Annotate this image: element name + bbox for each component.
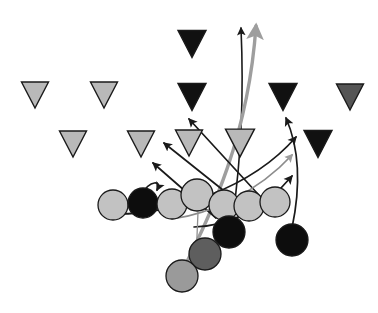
lineman-right (260, 187, 290, 217)
receiver-black-left (128, 188, 158, 218)
lineman-4 (234, 191, 264, 221)
lineman-left (98, 190, 128, 220)
back-gray-deep (166, 260, 198, 292)
play-diagram-svg (0, 0, 378, 313)
back-black-right (276, 224, 308, 256)
play-diagram-canvas (0, 0, 378, 313)
lineman-center (181, 179, 213, 211)
back-black-mid (213, 216, 245, 248)
